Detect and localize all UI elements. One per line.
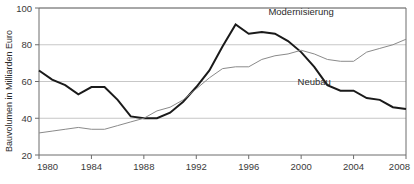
y-tick-label-100: 100 (16, 3, 32, 14)
x-tick-label-2008: 2008 (389, 161, 410, 172)
line-chart: 10080604020 1980198419881992199620002004… (0, 0, 414, 184)
y-tick-label-40: 40 (21, 113, 32, 124)
x-tick-label-1980: 1980 (37, 161, 58, 172)
y-tick-label-60: 60 (21, 76, 32, 87)
chart-container: 10080604020 1980198419881992199620002004… (0, 0, 414, 184)
series-label-modernisierung: Modernisierung (268, 6, 333, 17)
x-tick-label-1984: 1984 (81, 161, 102, 172)
y-tick-label-20: 20 (21, 150, 32, 161)
series-label-neubau: Neubau (298, 76, 331, 87)
x-tick-label-1992: 1992 (186, 161, 207, 172)
x-tick-label-1996: 1996 (238, 161, 259, 172)
x-tick-label-2000: 2000 (291, 161, 312, 172)
y-axis-ticks: 10080604020 (16, 3, 39, 161)
x-tick-label-1988: 1988 (133, 161, 154, 172)
y-axis-title: Bauvolumen in Milliarden Euro (4, 30, 14, 152)
x-axis-ticks: 19801984198819921996200020042008 (37, 155, 410, 172)
y-tick-label-80: 80 (21, 39, 32, 50)
x-tick-label-2004: 2004 (343, 161, 364, 172)
